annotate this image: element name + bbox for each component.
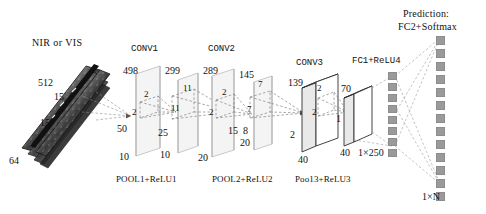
fc2-unit [436, 179, 445, 188]
conv2-pool-label: POOL2+ReLU2 [212, 175, 273, 184]
fc1-unit [388, 138, 397, 146]
conv2-kernel-b-h: 7 [247, 105, 252, 114]
conv2-kernel-a-w: 2 [222, 88, 227, 97]
fc2-unit [436, 153, 445, 162]
conv3-kernel-h: 2 [312, 108, 317, 117]
conv2-plane-b-top: 145 [239, 70, 254, 80]
conv3-box-b-top: 70 [341, 84, 351, 94]
fc2-unit [436, 114, 445, 123]
fc2-unit [436, 75, 445, 84]
fc2-neuron-column [436, 36, 445, 201]
fc1-unit [388, 94, 397, 102]
conv2-plane-a-side: 15 [228, 126, 238, 136]
input-channels-label: 64 [9, 156, 19, 166]
prediction-title: Prediction: [403, 9, 449, 19]
conv1-plane-a-top: 498 [123, 66, 138, 76]
fc2-title: FC2+Softmax [398, 22, 457, 32]
conv3-pool-label: Poo13+ReLU3 [295, 175, 351, 184]
fc2-unit [436, 140, 445, 149]
conv2-kernel-a-h: 2 [209, 108, 214, 117]
input-depth-label: 512 [38, 78, 53, 88]
fc2-unit [436, 127, 445, 136]
conv3-box-b-side: 1 [336, 114, 341, 124]
conv1-kernel-a-h: 2 [132, 108, 137, 117]
input-title: NIR or VIS [32, 38, 82, 48]
fc1-title: FC1+ReLU4 [352, 57, 401, 66]
fc1-unit [388, 116, 397, 124]
input-height-label: 15 [54, 92, 64, 102]
fc2-unit [436, 166, 445, 175]
conv1-kernel-b-h: 11 [171, 104, 180, 113]
conv2-plane-a-top: 289 [203, 66, 218, 76]
fc1-neuron-column [388, 72, 397, 157]
connector-fc1-fc2 [395, 38, 440, 184]
conv1-pool-label: POOL1+ReLU1 [116, 175, 177, 184]
fc1-unit [388, 72, 397, 80]
fc1-unit [388, 105, 397, 113]
conv1-kernel-a-w: 2 [144, 90, 149, 99]
cnn-architecture-figure: NIR or VIS 512 15 15 64 CONV1 498 50 10 … [0, 0, 486, 214]
fc2-unit [436, 49, 445, 58]
conv3-box-a-top: 139 [288, 78, 303, 88]
conv1-plane-b-side: 25 [158, 128, 168, 138]
conv2-plane-a [212, 69, 234, 157]
conv2-title: CONV2 [208, 45, 235, 54]
fc1-unit [388, 149, 397, 157]
conv3-box-a-side: 2 [290, 130, 295, 140]
conv1-plane-b-bottom: 10 [160, 150, 170, 160]
conv3-title: CONV3 [296, 59, 323, 68]
conv3-kernel-w: 2 [317, 84, 322, 93]
fc2-unit [436, 88, 445, 97]
conv3-box-b [344, 86, 372, 146]
fc1-shape-label: 1×250 [358, 148, 384, 158]
fc1-unit [388, 83, 397, 91]
conv2-plane-b-side: 8 [243, 126, 248, 136]
input-image-block [22, 64, 110, 168]
fc2-unit [436, 36, 445, 45]
input-width-label: 15 [40, 118, 50, 128]
conv1-plane-a-side: 50 [117, 124, 127, 134]
fc2-unit [436, 101, 445, 110]
conv3-box-a-bottom: 40 [298, 155, 308, 165]
conv1-title: CONV1 [131, 45, 158, 54]
fc2-shape-label: 1×N [422, 192, 440, 202]
conv2-plane-b [254, 76, 272, 150]
conv2-kernel-b-w: 7 [258, 80, 263, 89]
conv1-plane-a [136, 66, 160, 156]
conv3-box-b-bottom: 40 [340, 148, 350, 158]
conv2-plane-b-bottom: 20 [240, 138, 250, 148]
fc1-unit [388, 127, 397, 135]
conv1-kernel-b-w: 11 [183, 84, 192, 93]
conv2-plane-a-bottom: 20 [198, 153, 208, 163]
conv1-plane-a-bottom: 10 [119, 152, 129, 162]
conv1-plane-b-top: 299 [165, 66, 180, 76]
fc2-unit [436, 62, 445, 71]
